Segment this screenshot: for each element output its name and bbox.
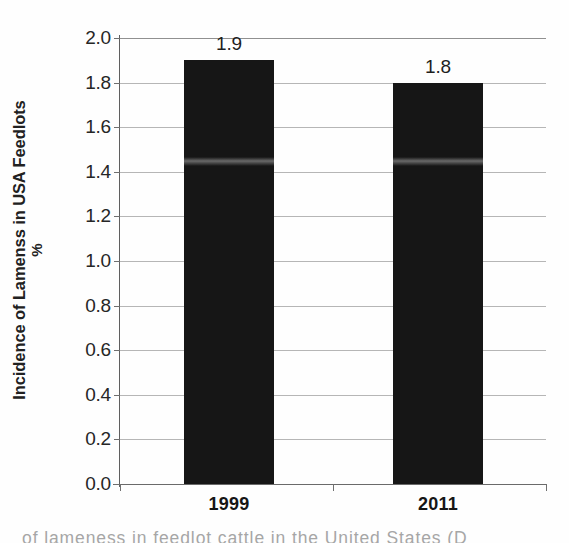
figure-caption: of lameness in feedlot cattle in the Uni… — [0, 527, 569, 543]
y-axis-tick-label: 0.2 — [85, 428, 111, 450]
y-axis-tick-label: 0.4 — [85, 384, 111, 406]
y-axis-tick-label: 1.0 — [85, 250, 111, 272]
y-axis-tick-mark — [114, 395, 120, 396]
bar: 1.8 — [393, 83, 483, 484]
y-axis-tick-mark — [114, 439, 120, 440]
bar: 1.9 — [184, 60, 274, 484]
y-axis-tick-label: 1.8 — [85, 72, 111, 94]
y-axis-tick-label: 0.6 — [85, 339, 111, 361]
bar-value-label: 1.9 — [216, 33, 242, 55]
y-axis-tick-label: 0.8 — [85, 295, 111, 317]
y-axis-title: Incidence of Lamenss in USA Feedlots % — [0, 0, 56, 500]
y-axis-tick-label: 2.0 — [85, 27, 111, 49]
scan-artifact-band — [393, 157, 483, 166]
x-axis-tick-mark — [120, 484, 121, 491]
y-axis-tick-label: 1.4 — [85, 161, 111, 183]
x-axis-tick-mark — [333, 484, 334, 491]
y-axis-tick-mark — [114, 38, 120, 39]
y-axis-tick-label: 1.6 — [85, 116, 111, 138]
x-axis-category-label: 2011 — [418, 494, 458, 515]
y-axis-tick-mark — [114, 261, 120, 262]
y-axis-tick-mark — [114, 216, 120, 217]
y-axis-tick-mark — [114, 127, 120, 128]
scan-artifact-band — [184, 157, 274, 166]
x-axis-category-label: 1999 — [209, 494, 250, 515]
y-axis-tick-label: 0.0 — [85, 473, 111, 495]
y-axis-tick-label: 1.2 — [85, 205, 111, 227]
y-axis-tick-mark — [114, 306, 120, 307]
y-axis-title-line1: Incidence of Lamenss in USA Feedlots — [11, 100, 28, 399]
y-axis-tick-mark — [114, 172, 120, 173]
gridline — [120, 38, 546, 39]
figure-caption-text: of lameness in feedlot cattle in the Uni… — [22, 528, 569, 543]
bar-value-label: 1.8 — [425, 56, 451, 78]
y-axis-tick-mark — [114, 83, 120, 84]
bar-chart-figure: Incidence of Lamenss in USA Feedlots % 2… — [0, 0, 569, 543]
x-axis-tick-mark — [546, 484, 547, 491]
plot-area: 2.01.81.61.41.21.00.80.60.40.20.0 1.91.8 — [120, 38, 546, 484]
y-axis-tick-mark — [114, 350, 120, 351]
y-axis-title-line2: % — [29, 243, 45, 256]
